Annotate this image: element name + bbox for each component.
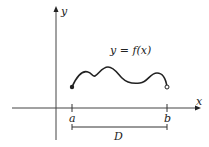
function-domain-diagram: y x a b y = f(x) D bbox=[0, 0, 209, 147]
label-b: b bbox=[164, 112, 171, 125]
x-axis-label: x bbox=[196, 95, 203, 108]
closed-endpoint-dot bbox=[70, 85, 74, 89]
open-endpoint-dot bbox=[165, 85, 169, 89]
y-axis-label: y bbox=[60, 5, 68, 18]
domain-label: D bbox=[113, 130, 123, 143]
label-a: a bbox=[69, 112, 76, 125]
y-axis-arrow-icon bbox=[54, 6, 59, 12]
function-label: y = f(x) bbox=[109, 44, 151, 57]
function-curve bbox=[72, 67, 167, 87]
